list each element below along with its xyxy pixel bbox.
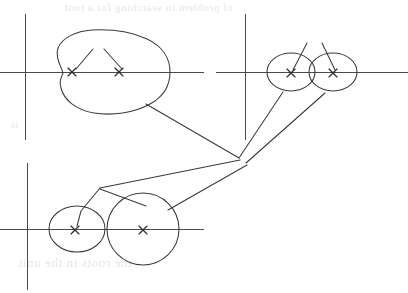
connector-group xyxy=(100,92,325,210)
bottom-left-panel xyxy=(0,163,204,290)
figure-container: of problem in searching for a root is th… xyxy=(0,0,408,293)
pointer-to-root-2 xyxy=(322,43,335,70)
root-marker-1 xyxy=(71,226,79,234)
connector-hub-to-bottom-polyline xyxy=(100,160,240,188)
pointer-to-root-1 xyxy=(76,49,93,69)
root-marker-2 xyxy=(139,226,147,234)
pointer-branch-to-root-1 xyxy=(100,189,146,206)
figure-drawing xyxy=(0,0,408,293)
root-marker-2 xyxy=(329,69,337,77)
top-left-panel xyxy=(0,14,204,140)
pointer-polyline-to-root-1 xyxy=(77,188,100,226)
top-right-panel xyxy=(216,14,408,140)
connector-hub-to-top-right-right-ellipse xyxy=(246,93,325,163)
root-marker-1 xyxy=(287,69,295,77)
pointer-to-root-2 xyxy=(104,49,122,69)
connector-top-left-to-hub xyxy=(146,104,239,158)
connector-hub-to-top-right-left-ellipse xyxy=(239,92,283,158)
